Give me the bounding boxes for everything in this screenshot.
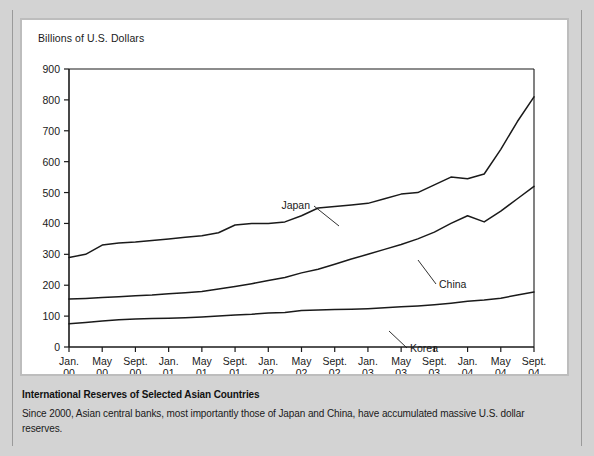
chart-panel: Billions of U.S. Dollars 010020030040050… bbox=[20, 18, 569, 376]
x-tick-label-year: 01 bbox=[196, 367, 208, 374]
figure-caption: International Reserves of Selected Asian… bbox=[22, 389, 567, 436]
x-tick-label-year: 00 bbox=[63, 367, 75, 374]
x-tick-label-month: May bbox=[391, 355, 412, 367]
y-tick-label: 100 bbox=[42, 310, 60, 322]
y-tick-label: 500 bbox=[42, 187, 60, 199]
x-tick-label-month: Jan. bbox=[258, 355, 278, 367]
series-label-korea: Korea bbox=[410, 342, 438, 354]
figure: Billions of U.S. Dollars 010020030040050… bbox=[20, 18, 573, 438]
x-tick-label-year: 03 bbox=[362, 367, 374, 374]
x-tick-label-year: 01 bbox=[163, 367, 175, 374]
page-right-rule bbox=[581, 10, 582, 446]
caption-body: Since 2000, Asian central banks, most im… bbox=[22, 407, 562, 436]
x-tick-label-month: May bbox=[292, 355, 313, 367]
y-tick-label: 800 bbox=[42, 94, 60, 106]
x-tick-label-month: May bbox=[491, 355, 512, 367]
x-tick-label-year: 01 bbox=[229, 367, 241, 374]
series-line-korea bbox=[69, 292, 534, 324]
x-tick-label-month: Sept. bbox=[522, 355, 547, 367]
series-label-japan: Japan bbox=[281, 199, 310, 211]
x-tick-label-year: 04 bbox=[462, 367, 474, 374]
x-tick-label-month: Jan. bbox=[358, 355, 378, 367]
x-tick-label-year: 00 bbox=[130, 367, 142, 374]
x-tick-label-month: Sept. bbox=[422, 355, 447, 367]
y-tick-label: 900 bbox=[42, 63, 60, 75]
x-tick-label-year: 04 bbox=[528, 367, 540, 374]
x-tick-label-year: 02 bbox=[296, 367, 308, 374]
y-tick-label: 300 bbox=[42, 248, 60, 260]
y-axis-title: Billions of U.S. Dollars bbox=[38, 32, 144, 44]
y-tick-label: 0 bbox=[54, 341, 60, 353]
series-label-china: China bbox=[439, 278, 467, 290]
x-tick-label-month: Sept. bbox=[123, 355, 148, 367]
page-background: Billions of U.S. Dollars 010020030040050… bbox=[0, 0, 594, 456]
x-tick-label-year: 02 bbox=[262, 367, 274, 374]
x-tick-label-month: Sept. bbox=[223, 355, 248, 367]
x-tick-label-year: 03 bbox=[395, 367, 407, 374]
series-line-japan bbox=[69, 97, 534, 258]
y-tick-label: 400 bbox=[42, 217, 60, 229]
x-tick-label-month: May bbox=[92, 355, 113, 367]
x-tick-label-month: Jan. bbox=[458, 355, 478, 367]
page-left-rule bbox=[12, 10, 13, 446]
x-tick-label-year: 02 bbox=[329, 367, 341, 374]
x-tick-label-month: May bbox=[192, 355, 213, 367]
leader-line-korea bbox=[389, 331, 407, 348]
y-tick-label: 700 bbox=[42, 125, 60, 137]
x-tick-label-year: 03 bbox=[429, 367, 441, 374]
x-tick-label-year: 00 bbox=[96, 367, 108, 374]
caption-title: International Reserves of Selected Asian… bbox=[22, 389, 567, 400]
y-tick-label: 600 bbox=[42, 156, 60, 168]
x-tick-label-month: Jan. bbox=[159, 355, 179, 367]
x-tick-label-year: 04 bbox=[495, 367, 507, 374]
x-tick-label-month: Jan. bbox=[59, 355, 79, 367]
line-chart: 0100200300400500600700800900Jan.00May00S… bbox=[22, 20, 567, 374]
x-tick-label-month: Sept. bbox=[322, 355, 347, 367]
y-tick-label: 200 bbox=[42, 279, 60, 291]
leader-line-japan bbox=[314, 206, 339, 226]
leader-line-china bbox=[418, 260, 436, 284]
